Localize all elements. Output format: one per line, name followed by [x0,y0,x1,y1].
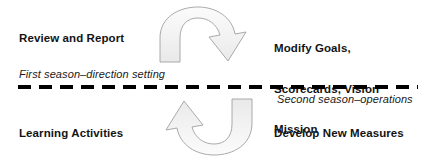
stage-label-learning-activities: Learning Activities [19,127,123,141]
curved-arrow-right-down-icon [156,4,252,66]
divider-line [18,85,418,89]
cycle-diagram: Review and Report Modify Goals, Scorecar… [0,0,435,163]
caption-first-season: First season–direction setting [19,68,165,81]
dashed-divider-icon [18,85,418,89]
curved-arrow-left-up-icon [158,97,256,159]
stage-label-review-and-report: Review and Report [19,32,124,46]
stage-label-develop-new-measures: Develop New Measures [274,127,404,141]
caption-second-season: Second season–operations [277,93,413,106]
stage-label-modify-goals: Modify Goals, Scorecards, Vision Mission [274,15,379,163]
modify-goals-line-1: Modify Goals, [274,42,379,56]
